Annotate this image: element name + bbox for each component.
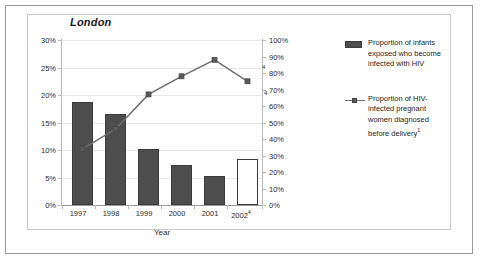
right-tick-60 — [262, 106, 266, 107]
right-axis-label-70: 70% — [269, 86, 299, 95]
right-axis-label-10: 10% — [269, 185, 299, 194]
bar-2002 — [237, 159, 258, 205]
legend-label-line: Proportion of HIV-infected pregnant wome… — [368, 94, 445, 140]
left-axis-label-25: 25% — [28, 64, 56, 73]
chart-screenshot: London 30% 25% 20% 15% 10% 5 — [0, 0, 480, 261]
right-axis-label-60: 60% — [269, 102, 299, 111]
bar-2000 — [171, 165, 192, 205]
left-tick-25 — [58, 68, 62, 69]
bar-1997 — [72, 102, 93, 205]
gridline-25 — [62, 68, 262, 69]
right-axis-label-80: 80% — [269, 69, 299, 78]
left-axis-label-30: 30% — [28, 36, 56, 45]
right-tick-80 — [262, 73, 266, 74]
legend-entry-bars: Proportion of infants exposed who become… — [345, 38, 445, 70]
right-tick-100 — [262, 40, 266, 41]
x-axis-label-2002-text: 2002 — [231, 211, 248, 220]
gridline-30 — [62, 40, 262, 41]
gridline-20 — [62, 95, 262, 96]
legend-line-marker-icon — [352, 98, 357, 103]
right-axis-label-40: 40% — [269, 135, 299, 144]
legend-label-line-sup: 1 — [417, 127, 420, 133]
left-tick-5 — [58, 178, 62, 179]
left-tick-15 — [58, 123, 62, 124]
bar-1998 — [105, 114, 126, 205]
page-title: London — [70, 16, 112, 28]
right-axis-label-50: 50% — [269, 119, 299, 128]
x-tick-6 — [262, 205, 263, 209]
left-axis-label-0: 0% — [28, 201, 56, 210]
legend-bar-swatch-icon — [345, 41, 362, 48]
left-axis-label-15: 15% — [28, 119, 56, 128]
right-axis-label-0: 0% — [269, 201, 299, 210]
bar-1999 — [138, 149, 159, 205]
right-tick-90 — [262, 57, 266, 58]
right-axis-label-100: 100% — [269, 36, 299, 45]
left-axis-label-20: 20% — [28, 91, 56, 100]
left-axis-label-10: 10% — [28, 146, 56, 155]
right-tick-10 — [262, 189, 266, 190]
right-tick-30 — [262, 156, 266, 157]
left-axis-label-5: 5% — [28, 174, 56, 183]
bar-2001 — [204, 176, 225, 205]
right-tick-20 — [262, 172, 266, 173]
legend: Proportion of infants exposed who become… — [345, 38, 445, 153]
x-axis-line — [61, 205, 263, 206]
x-axis-label-2002: 20024 — [221, 209, 261, 220]
left-tick-30 — [58, 40, 62, 41]
annotation-sup-4-datapoint: 4 — [262, 64, 265, 70]
right-tick-40 — [262, 139, 266, 140]
right-axis-label-30: 30% — [269, 152, 299, 161]
x-axis-title: Year — [122, 228, 202, 237]
plot-area — [62, 40, 262, 205]
right-axis-label-90: 90% — [269, 53, 299, 62]
right-tick-50 — [262, 123, 266, 124]
right-axis-label-20: 20% — [269, 168, 299, 177]
legend-label-bars: Proportion of infants exposed who become… — [368, 38, 445, 70]
x-axis-label-2002-sup: 4 — [248, 209, 251, 215]
left-tick-10 — [58, 150, 62, 151]
legend-line-swatch-icon — [345, 97, 365, 104]
left-tick-20 — [58, 95, 62, 96]
annotation-sup-4-axis: 4 — [264, 90, 267, 96]
legend-entry-line: Proportion of HIV-infected pregnant wome… — [345, 94, 445, 140]
